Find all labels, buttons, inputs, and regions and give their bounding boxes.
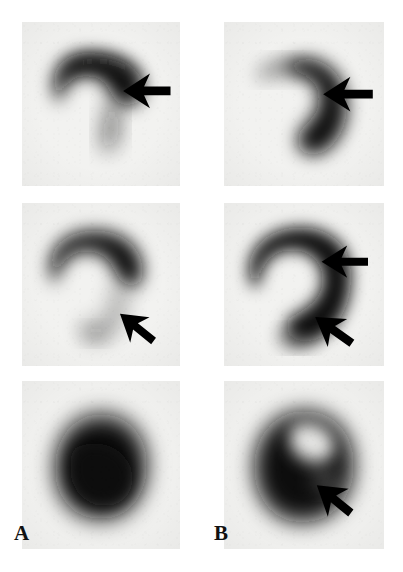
- panel-a-row2-scan-image: [22, 203, 180, 366]
- panel-a-row2: [22, 203, 180, 366]
- panel-b-row1-scan-image: [224, 22, 384, 186]
- panel-b-row2: [224, 203, 384, 366]
- panel-a-row1: [22, 22, 180, 186]
- panel-a-row3-scan-image: [22, 381, 180, 549]
- panel-a-row3: [22, 381, 180, 549]
- column-label-b: B: [214, 523, 228, 544]
- panel-b-row2-scan-image: [224, 203, 384, 366]
- scintigraphy-figure: AB: [0, 0, 403, 572]
- arrow-a2: [120, 314, 156, 344]
- column-label-a: A: [14, 523, 29, 544]
- panel-b-row3-scan-image: [224, 381, 384, 549]
- panel-b-row1: [224, 22, 384, 186]
- panel-b-row3: [224, 381, 384, 549]
- panel-a-row1-scan-image: [22, 22, 180, 186]
